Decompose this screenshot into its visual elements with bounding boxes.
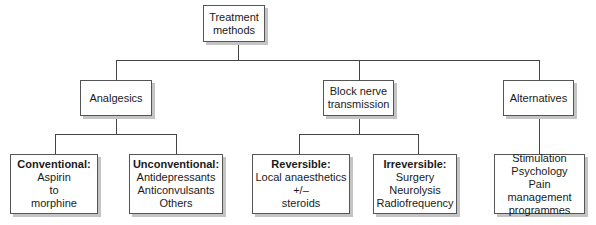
node-line: Radiofrequency (376, 197, 453, 210)
connector-to-block-nerve (359, 60, 360, 80)
connector-alternatives-down (539, 115, 540, 154)
node-label-line: Alternatives (510, 92, 567, 105)
connector-to-irreversible (418, 134, 419, 154)
connector-to-conventional (55, 134, 56, 154)
node-line: +/– (293, 184, 309, 197)
node-label-line: Analgesics (89, 92, 142, 105)
node-line: steroids (282, 197, 321, 210)
node-line: Psychology (511, 165, 567, 178)
node-irreversible: Irreversible: Surgery Neurolysis Radiofr… (373, 154, 457, 214)
connector-root-down (238, 41, 239, 60)
connector-level1-bar (116, 60, 540, 61)
node-label-line: methods (213, 24, 255, 37)
node-label-line: transmission (328, 98, 390, 111)
node-line: to (49, 184, 58, 197)
connector-block-bar (299, 134, 419, 135)
node-title: Reversible: (271, 158, 330, 171)
node-treatment-methods: Treatment methods (203, 5, 265, 42)
node-line: Stimulation (512, 152, 566, 165)
node-line: programmes (509, 204, 571, 217)
node-label-line: Treatment (209, 11, 259, 24)
node-line: Neurolysis (389, 184, 440, 197)
connector-to-alternatives (539, 60, 540, 80)
connector-to-analgesics (116, 60, 117, 80)
node-title: Irreversible: (384, 158, 447, 171)
node-conventional: Conventional: Aspirin to morphine (10, 154, 98, 214)
node-title: Unconventional: (133, 158, 219, 171)
connector-to-reversible (299, 134, 300, 154)
node-alternatives-list: Stimulation Psychology Pain management p… (494, 154, 585, 214)
node-reversible: Reversible: Local anaesthetics +/– stero… (252, 154, 350, 214)
node-title: Conventional: (17, 158, 90, 171)
node-line: Surgery (396, 171, 435, 184)
connector-to-unconventional (176, 134, 177, 154)
node-line: Others (159, 197, 192, 210)
node-analgesics: Analgesics (80, 80, 152, 116)
node-label-line: Block nerve (330, 85, 387, 98)
node-line: Anticonvulsants (137, 184, 214, 197)
node-line: morphine (31, 197, 77, 210)
node-line: Aspirin (37, 171, 71, 184)
node-line: Local anaesthetics (255, 171, 346, 184)
connector-block-down (359, 115, 360, 134)
node-alternatives: Alternatives (503, 80, 574, 116)
node-line: Antidepressants (137, 171, 216, 184)
node-block-nerve-transmission: Block nerve transmission (323, 80, 394, 116)
connector-analgesics-down (116, 115, 117, 134)
node-line: Pain management (495, 178, 584, 204)
connector-analgesics-bar (55, 134, 177, 135)
node-unconventional: Unconventional: Antidepressants Anticonv… (129, 154, 223, 214)
